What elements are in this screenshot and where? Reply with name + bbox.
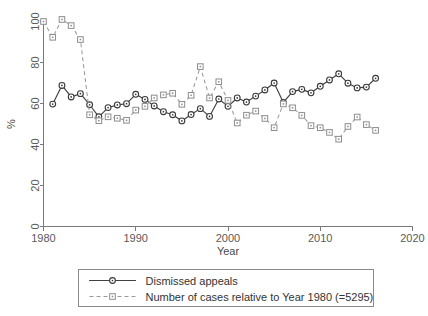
data-point-center: [190, 95, 192, 97]
data-point-center: [319, 85, 321, 87]
data-point-center: [310, 125, 312, 127]
data-point-center: [347, 126, 349, 128]
data-point-center: [135, 109, 137, 111]
series-group: [41, 17, 379, 142]
data-point-center: [246, 114, 248, 116]
data-point-center: [283, 103, 285, 105]
data-point-center: [80, 93, 82, 95]
data-point-center: [43, 21, 45, 23]
x-tick-label: 2020: [400, 232, 424, 244]
data-point-center: [181, 104, 183, 106]
x-tick-label: 2000: [216, 232, 240, 244]
data-point-center: [144, 106, 146, 108]
data-point-center: [153, 97, 155, 99]
data-point-center: [338, 73, 340, 75]
data-point-center: [116, 104, 118, 106]
y-tick-label: 60: [29, 97, 41, 109]
data-point-center: [126, 103, 128, 105]
y-tick-label: 80: [29, 56, 41, 68]
data-point-center: [273, 82, 275, 84]
y-axis-title: %: [5, 119, 17, 129]
legend-label-2: Number of cases relative to Year 1980 (=…: [146, 291, 374, 303]
data-point-center: [172, 114, 174, 116]
data-point-center: [89, 104, 91, 106]
data-point-center: [338, 138, 340, 140]
data-point-center: [273, 127, 275, 129]
data-point-center: [135, 93, 137, 95]
data-point-center: [347, 82, 349, 84]
data-point-center: [80, 39, 82, 41]
data-point-center: [246, 101, 248, 103]
data-point-center: [61, 85, 63, 87]
data-point-center: [209, 97, 211, 99]
data-point-center: [209, 116, 211, 118]
data-point-center: [126, 120, 128, 122]
data-point-center: [61, 19, 63, 21]
data-point-center: [70, 25, 72, 27]
series-line-2: [44, 19, 376, 139]
data-point-center: [375, 77, 377, 79]
data-point-center: [98, 120, 100, 122]
data-point-center: [320, 127, 322, 129]
x-tick-label: 1980: [31, 232, 55, 244]
data-point-center: [356, 87, 358, 89]
data-point-center: [218, 81, 220, 83]
data-point-center: [329, 79, 331, 81]
data-point-center: [218, 98, 220, 100]
data-point-center: [356, 116, 358, 118]
data-point-center: [89, 114, 91, 116]
data-point-center: [264, 89, 266, 91]
data-point-center: [310, 92, 312, 94]
data-point-center: [52, 37, 54, 39]
x-tick-label: 2010: [308, 232, 332, 244]
data-point-center: [227, 106, 229, 108]
y-tick-label: 100: [29, 12, 41, 30]
data-point-center: [236, 97, 238, 99]
legend-group: Dismissed appealsNumber of cases relativ…: [79, 270, 374, 307]
data-point-center: [163, 111, 165, 113]
y-tick-label: 40: [29, 138, 41, 150]
data-point-center: [70, 96, 72, 98]
legend-key-center: [112, 296, 114, 298]
data-point-center: [292, 91, 294, 93]
data-point-center: [117, 118, 119, 120]
data-point-center: [255, 110, 256, 112]
data-point-center: [163, 94, 165, 96]
data-point-center: [301, 89, 303, 91]
data-point-center: [107, 107, 109, 109]
data-point-center: [301, 115, 303, 117]
data-point-center: [264, 118, 266, 120]
data-point-center: [200, 66, 202, 68]
data-point-center: [366, 86, 368, 88]
chart-container: 020406080100%19801990200020102020Year Di…: [0, 0, 428, 316]
axis-group: 020406080100%19801990200020102020Year: [5, 12, 425, 256]
legend-key-center: [112, 280, 114, 282]
data-point-center: [227, 100, 229, 102]
data-point-center: [181, 120, 183, 122]
chart-plot-area: 020406080100%19801990200020102020Year Di…: [0, 0, 428, 316]
data-point-center: [98, 116, 100, 118]
y-tick-label: 20: [29, 179, 41, 191]
data-point-center: [172, 93, 174, 95]
data-point-center: [236, 122, 238, 124]
y-tick-label: 0: [29, 223, 41, 229]
data-point-center: [329, 132, 331, 134]
data-point-center: [255, 95, 257, 97]
x-tick-label: 1990: [124, 232, 148, 244]
data-point-center: [366, 124, 368, 126]
data-point-center: [107, 116, 109, 118]
data-point-center: [153, 105, 155, 107]
data-point-center: [375, 130, 377, 132]
data-point-center: [190, 114, 192, 116]
data-point-center: [52, 103, 54, 105]
data-point-center: [199, 108, 201, 110]
legend-label-1: Dismissed appeals: [146, 275, 239, 287]
data-point-center: [292, 107, 294, 109]
data-point-center: [144, 99, 146, 101]
x-axis-title: Year: [217, 245, 240, 257]
